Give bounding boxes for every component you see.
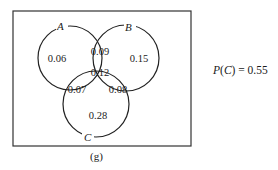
set-label-a: A [56,20,64,32]
prob-value: ) = 0.55 [232,64,268,76]
prob-set: C [224,64,232,76]
region-bc: 0.08 [109,84,127,95]
region-ac: 0.07 [68,84,86,95]
region-abc: 0.12 [91,67,109,78]
region-b-only: 0.15 [130,53,148,64]
prob-symbol: P [213,64,220,76]
set-label-c: C [84,131,92,143]
universe-box [13,11,191,146]
probability-annotation: P(C) = 0.55 [213,64,268,76]
figure-caption: (g) [90,150,103,162]
region-c-only: 0.28 [89,110,107,121]
region-ab: 0.09 [91,46,109,57]
circle-c [63,71,129,137]
circle-b [93,25,159,91]
venn-diagram: A B C 0.06 0.09 0.15 0.12 0.07 0.08 0.28 [0,0,278,170]
region-a-only: 0.06 [48,53,66,64]
set-label-b: B [125,21,132,33]
